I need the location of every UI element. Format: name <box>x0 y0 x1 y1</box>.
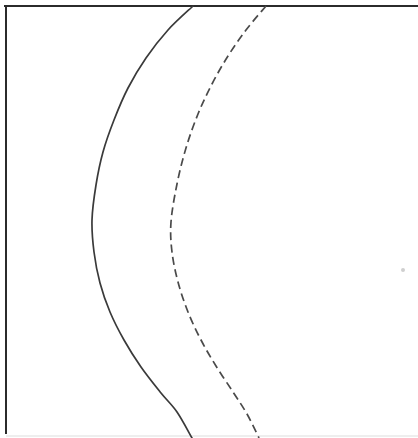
figure-background <box>0 0 418 438</box>
curve-figure-svg <box>0 0 418 438</box>
figure-canvas <box>0 0 418 438</box>
scan-speck-artifact <box>401 268 405 272</box>
